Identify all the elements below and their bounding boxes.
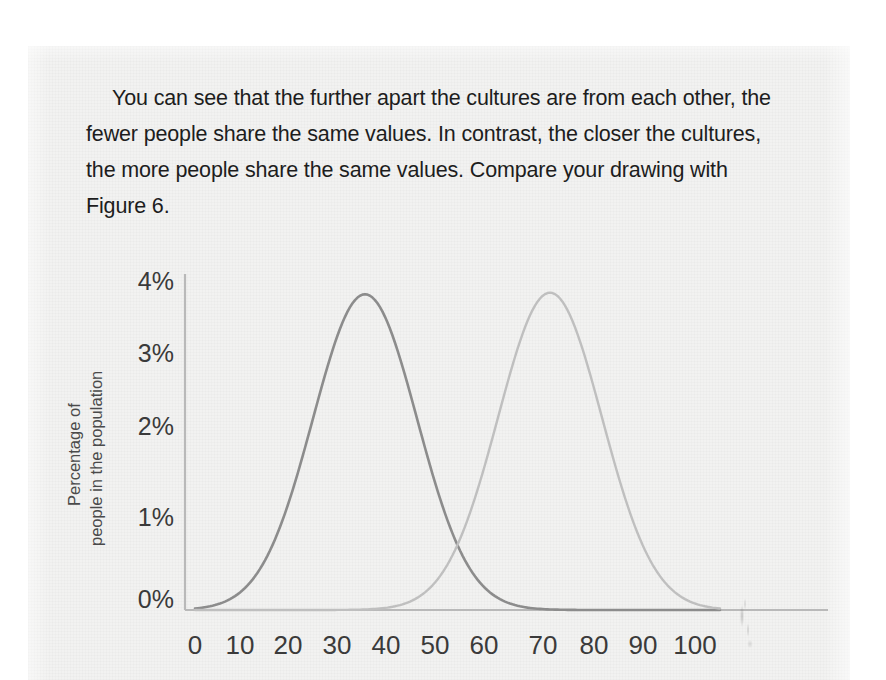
y-axis-title-line2: people in the population xyxy=(87,371,105,546)
x-tick-label-70: 70 xyxy=(529,630,558,660)
x-tick-label-100: 100 xyxy=(673,630,716,660)
y-tick-label-4: 4% xyxy=(138,267,174,295)
x-tick-label-40: 40 xyxy=(372,630,401,660)
y-axis-title-line1: Percentage of xyxy=(65,403,83,506)
x-tick-label-60: 60 xyxy=(470,630,499,660)
x-tick-label-80: 80 xyxy=(580,630,609,660)
y-tick-label-3: 3% xyxy=(138,339,174,367)
x-tick-label-20: 20 xyxy=(274,630,303,660)
curve-culture-a xyxy=(195,294,720,610)
scanned-page-area: You can see that the further apart the c… xyxy=(28,46,850,680)
y-tick-label-0: 0% xyxy=(138,585,174,613)
y-tick-label-2: 2% xyxy=(138,412,174,440)
x-tick-label-90: 90 xyxy=(629,630,658,660)
curve-culture-b xyxy=(195,293,720,610)
x-tick-label-10: 10 xyxy=(226,630,255,660)
x-tick-label-30: 30 xyxy=(323,630,352,660)
x-tick-label-0: 0 xyxy=(188,630,202,660)
x-tick-label-50: 50 xyxy=(421,630,450,660)
y-tick-label-1: 1% xyxy=(138,503,174,531)
scanned-page-view: You can see that the further apart the c… xyxy=(0,0,886,680)
body-paragraph: You can see that the further apart the c… xyxy=(86,80,786,224)
